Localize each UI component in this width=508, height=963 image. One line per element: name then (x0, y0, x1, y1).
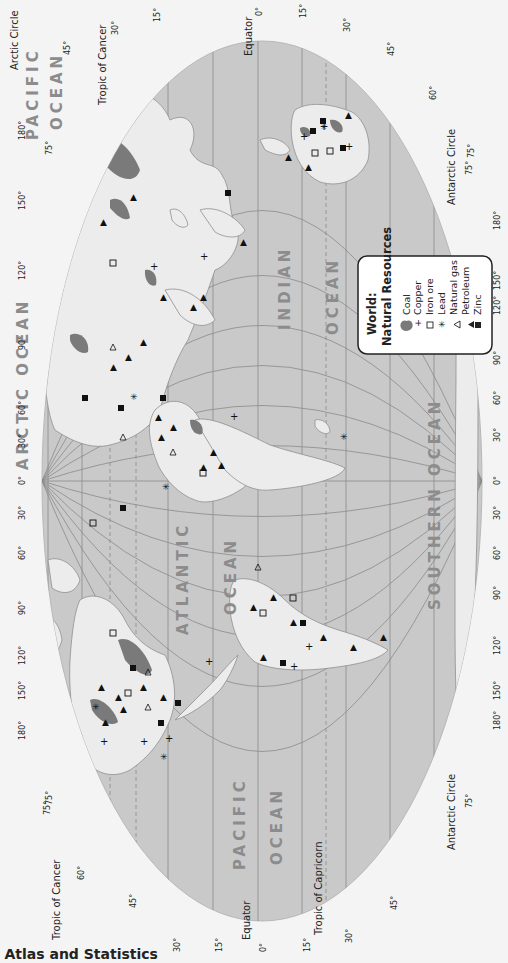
svg-text:180°: 180° (18, 121, 27, 140)
ocean-label-pacific-west: PACIFIC (231, 777, 249, 870)
svg-text:▲: ▲ (140, 682, 147, 692)
svg-text:30°: 30° (493, 506, 502, 520)
svg-text:+: + (165, 733, 173, 744)
label-equator-top: Equator (243, 16, 254, 56)
svg-text:15°: 15° (303, 938, 312, 952)
svg-text:✳: ✳ (320, 122, 328, 132)
svg-text:30°: 30° (493, 428, 502, 442)
svg-text:Petroleum: Petroleum (460, 267, 471, 315)
label-tropic-cancer-bottom: Tropic of Cancer (51, 859, 62, 941)
label-tropic-cancer-top: Tropic of Cancer (97, 24, 108, 106)
svg-text:90°: 90° (493, 351, 502, 365)
svg-text:▲: ▲ (210, 447, 217, 457)
svg-text:150°: 150° (493, 681, 502, 700)
svg-text:75°: 75° (465, 794, 474, 808)
svg-text:45°: 45° (129, 894, 138, 908)
zinc-icon (475, 322, 481, 328)
svg-text:▲: ▲ (345, 110, 352, 120)
svg-text:45°: 45° (387, 42, 396, 56)
svg-text:180°: 180° (493, 211, 502, 230)
svg-text:▲: ▲ (140, 337, 147, 347)
svg-text:120°: 120° (493, 296, 502, 315)
ocean-label-southern: SOUTHERN OCEAN (426, 398, 444, 610)
svg-text:+: + (140, 736, 148, 747)
svg-text:Lead: Lead (436, 292, 447, 315)
svg-text:120°: 120° (18, 646, 27, 665)
svg-text:150°: 150° (18, 681, 27, 700)
svg-text:▲: ▲ (305, 162, 312, 172)
svg-text:90°: 90° (18, 601, 27, 615)
svg-text:30°: 30° (173, 938, 182, 952)
svg-text:30°: 30° (18, 506, 27, 520)
svg-text:▲: ▲ (200, 292, 207, 302)
svg-text:▲: ▲ (320, 632, 327, 642)
svg-text:0°: 0° (255, 7, 264, 16)
svg-text:15°: 15° (299, 4, 308, 18)
svg-text:30°: 30° (345, 929, 354, 943)
svg-text:45°: 45° (390, 896, 399, 910)
svg-text:▲: ▲ (260, 652, 267, 662)
svg-text:▲: ▲ (102, 717, 109, 727)
svg-text:+: + (100, 736, 108, 747)
svg-text:60°: 60° (429, 86, 438, 100)
svg-text:▲: ▲ (270, 592, 277, 602)
ocean-label-atlantic: ATLANTIC (174, 522, 192, 635)
svg-text:▲: ▲ (160, 692, 167, 702)
svg-text:0°: 0° (493, 476, 502, 485)
svg-text:30°: 30° (111, 21, 120, 35)
svg-text:▲: ▲ (110, 362, 117, 372)
label-antarctic-circle-bottom: Antarctic Circle (446, 774, 457, 850)
ocean-label-pacific-west-2: OCEAN (268, 787, 286, 865)
svg-text:+: + (150, 261, 158, 272)
label-arctic-circle-top: Arctic Circle (9, 10, 20, 70)
svg-text:Zinc: Zinc (472, 295, 483, 315)
svg-text:✳: ✳ (75, 787, 83, 797)
legend-title-1: World: (365, 292, 379, 335)
svg-text:+: + (200, 251, 208, 262)
svg-text:Coal: Coal (401, 294, 412, 315)
svg-text:+: + (290, 661, 298, 672)
svg-text:30°: 30° (343, 18, 352, 32)
svg-text:75°: 75° (467, 144, 476, 158)
ocean-label-atlantic-2: OCEAN (222, 537, 240, 615)
svg-text:✳: ✳ (162, 482, 170, 492)
svg-text:▲: ▲ (170, 422, 177, 432)
svg-text:60°: 60° (493, 546, 502, 560)
svg-text:120°: 120° (493, 636, 502, 655)
world-natural-resources-map: ▲▲▲ ▲▲▲ ▲▲▲ ▲▲▲ ▲▲▲ ▲▲▲ ▲▲▲ ▲▲▲ ▲▲▲ ▲▲▲ … (0, 0, 508, 963)
svg-text:+: + (345, 141, 353, 152)
label-antarctic-circle-top: Antarctic Circle (446, 129, 457, 205)
svg-text:+: + (305, 641, 313, 652)
svg-text:▲: ▲ (158, 432, 165, 442)
svg-text:▲: ▲ (130, 192, 137, 202)
svg-text:▲: ▲ (350, 642, 357, 652)
svg-text:75°: 75° (45, 141, 54, 155)
svg-text:30°: 30° (18, 434, 27, 448)
ocean-label-pacific-east-2: OCEAN (48, 52, 66, 130)
page-footer-title: : Atlas and Statistics (0, 946, 158, 962)
svg-text:150°: 150° (493, 271, 502, 290)
svg-text:▲: ▲ (100, 217, 107, 227)
svg-text:45°: 45° (63, 41, 72, 55)
svg-text:▲: ▲ (190, 302, 197, 312)
svg-text:▲: ▲ (65, 757, 72, 767)
svg-text:▲: ▲ (240, 237, 247, 247)
svg-text:▲: ▲ (380, 632, 387, 642)
label-tropic-capricorn-bottom: Tropic of Capricorn (313, 841, 324, 936)
svg-text:✳: ✳ (340, 432, 348, 442)
legend-title-2: Natural Resources (380, 227, 394, 346)
svg-text:+: + (205, 656, 213, 667)
svg-text:180°: 180° (493, 711, 502, 730)
svg-text:▲: ▲ (250, 602, 257, 612)
svg-text:60°: 60° (493, 391, 502, 405)
svg-text:15°: 15° (153, 8, 162, 22)
svg-text:120°: 120° (18, 261, 27, 280)
svg-text:Iron ore: Iron ore (424, 278, 435, 315)
svg-text:▲: ▲ (125, 352, 132, 362)
svg-text:✳: ✳ (130, 392, 138, 402)
svg-text:▲: ▲ (98, 682, 105, 692)
lead-icon: ✳ (437, 320, 447, 328)
svg-text:75°: 75° (45, 791, 54, 805)
svg-text:90°: 90° (493, 586, 502, 600)
svg-text:0°: 0° (18, 476, 27, 485)
